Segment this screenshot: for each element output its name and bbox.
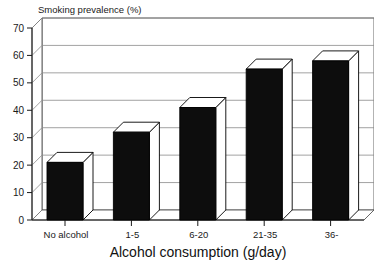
bar-front-1 — [47, 162, 83, 220]
bar-group-6-20[interactable] — [180, 98, 226, 221]
bar-front-2 — [113, 132, 149, 220]
bar-front-5 — [313, 61, 349, 220]
y-tick-labels: 0 10 20 30 40 50 60 70 — [13, 23, 25, 226]
bar-side-4 — [282, 59, 292, 220]
bar-chart-svg: 0 10 20 30 40 50 60 70 — [0, 0, 374, 265]
y-tick-label-0: 0 — [18, 215, 24, 226]
chart-container: 0 10 20 30 40 50 60 70 — [0, 0, 374, 265]
x-tick-label-36-plus: 36- — [325, 229, 339, 240]
bar-group-no-alcohol[interactable] — [47, 152, 93, 220]
y-axis-title: Smoking prevalence (%) — [38, 4, 142, 15]
x-tick-label-1-5: 1-5 — [126, 229, 140, 240]
bar-front-4 — [246, 69, 282, 220]
y-tick-label-70: 70 — [13, 23, 25, 34]
y-tick-marks — [27, 28, 32, 220]
y-tick-label-10: 10 — [13, 187, 25, 198]
bar-side-5 — [349, 51, 359, 220]
bar-group-36-plus[interactable] — [313, 51, 359, 220]
bar-side-3 — [216, 98, 226, 221]
y-tick-label-60: 60 — [13, 50, 25, 61]
x-axis-title: Alcohol consumption (g/day) — [110, 244, 287, 260]
y-tick-label-40: 40 — [13, 105, 25, 116]
x-tick-labels: No alcohol 1-5 6-20 21-35 36- — [44, 229, 339, 240]
bar-side-2 — [149, 122, 159, 220]
x-tick-label-21-35: 21-35 — [253, 229, 277, 240]
x-tick-marks — [65, 220, 331, 226]
bar-group-1-5[interactable] — [113, 122, 159, 220]
bar-front-3 — [180, 108, 216, 221]
y-tick-label-20: 20 — [13, 160, 25, 171]
x-tick-label-no-alcohol: No alcohol — [44, 229, 89, 240]
bar-group-21-35[interactable] — [246, 59, 292, 220]
y-tick-label-30: 30 — [13, 132, 25, 143]
left-wall — [32, 18, 42, 220]
y-tick-label-50: 50 — [13, 77, 25, 88]
bar-side-1 — [83, 152, 93, 220]
x-tick-label-6-20: 6-20 — [189, 229, 208, 240]
